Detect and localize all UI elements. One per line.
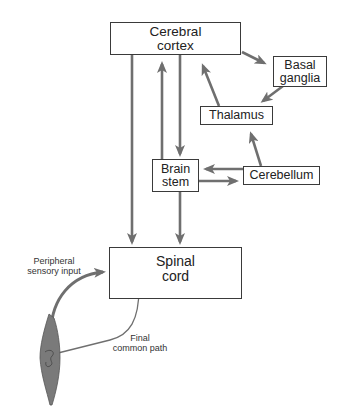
annotation-text: sensory input xyxy=(18,266,90,276)
node-brain-stem: Brain stem xyxy=(152,159,199,192)
arrow-cortex-to-basal-ganglia xyxy=(242,52,264,63)
annotation-text: Final xyxy=(105,333,175,343)
node-label: cortex xyxy=(150,39,202,53)
node-spinal-cord: Spinal cord xyxy=(109,247,242,299)
arrow-thalamus-to-cortex xyxy=(203,66,219,106)
node-label: cord xyxy=(156,269,195,284)
annotation-text: common path xyxy=(105,343,175,353)
node-thalamus: Thalamus xyxy=(200,106,273,125)
label-peripheral-sensory-input: Peripheral sensory input xyxy=(18,256,90,276)
node-label: ganglia xyxy=(280,72,320,85)
arrow-peripheral-sensory-input xyxy=(51,272,103,330)
node-label: Brain xyxy=(161,163,190,176)
node-label: Cerebral xyxy=(150,25,202,39)
node-label: Spinal xyxy=(156,254,195,269)
node-cerebral-cortex: Cerebral cortex xyxy=(110,22,241,55)
node-label: stem xyxy=(161,176,190,189)
node-label: Cerebellum xyxy=(250,169,314,182)
node-label: Basal xyxy=(280,59,320,72)
muscle-icon xyxy=(40,314,60,405)
annotation-text: Peripheral xyxy=(18,256,90,266)
arrow-cerebellum-to-thalamus xyxy=(251,134,261,166)
node-basal-ganglia: Basal ganglia xyxy=(273,56,327,87)
node-label: Thalamus xyxy=(209,109,264,122)
label-final-common-path: Final common path xyxy=(105,333,175,353)
node-cerebellum: Cerebellum xyxy=(243,166,320,185)
arrow-basal-ganglia-to-thalamus xyxy=(263,86,283,101)
